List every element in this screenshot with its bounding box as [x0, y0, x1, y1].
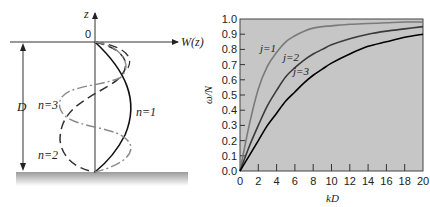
y-tick-label: 0.0: [222, 165, 237, 177]
w-axis-label: W(z): [181, 35, 204, 49]
y-tick-label: 0.6: [222, 74, 237, 86]
y-tick-label: 0.5: [222, 89, 237, 101]
x-tick-label: 6: [292, 175, 298, 187]
x-tick-label: 20: [417, 175, 429, 187]
y-tick-label: 0.3: [222, 119, 237, 131]
x-tick-label: 12: [344, 175, 356, 187]
x-tick-label: 4: [274, 175, 280, 187]
y-tick-label: 0.9: [222, 28, 237, 40]
x-tick-label: 16: [380, 175, 392, 187]
depth-label: D: [16, 99, 27, 114]
y-axis-label: ω/N: [202, 85, 214, 104]
x-tick-label: 18: [399, 175, 411, 187]
x-tick-label: 0: [237, 175, 243, 187]
figure: z 0 W(z) D n=1 n=3 n=2 0.00.10.20.30.40.…: [0, 0, 430, 207]
x-tick-label: 2: [255, 175, 261, 187]
mode-shape-diagram: z 0 W(z) D n=1 n=3 n=2: [10, 7, 204, 186]
y-tick-label: 0.4: [222, 104, 237, 116]
annotation-j3: j=3: [291, 65, 309, 77]
y-tick-label: 0.8: [222, 43, 237, 55]
x-tick-label: 10: [325, 175, 337, 187]
annotation-j2: j=2: [281, 51, 299, 63]
mode-n3-label: n=3: [38, 98, 58, 112]
y-tick-label: 1.0: [222, 13, 237, 25]
dispersion-chart: 0.00.10.20.30.40.50.60.70.80.91.0 024681…: [202, 13, 429, 204]
x-axis-label: kD: [326, 192, 339, 204]
origin-label: 0: [85, 28, 91, 40]
z-axis-label: z: [83, 7, 89, 21]
annotation-j1: j=1: [258, 42, 276, 54]
y-tick-label: 0.1: [222, 150, 237, 162]
x-tick-label: 14: [362, 175, 374, 187]
x-tick-label: 8: [310, 175, 316, 187]
mode-n1-label: n=1: [136, 105, 156, 119]
seabed-ground: [16, 172, 188, 186]
mode-n2-curve: [60, 42, 126, 172]
mode-n2-label: n=2: [38, 148, 58, 162]
y-tick-label: 0.2: [222, 135, 237, 147]
y-tick-label: 0.7: [222, 59, 237, 71]
